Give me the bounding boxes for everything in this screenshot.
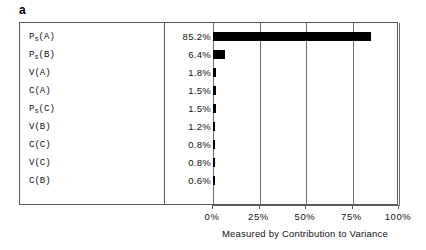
row-value: 0.8% (165, 154, 211, 172)
table-row: C(A)1.5% (20, 82, 164, 100)
row-value: 1.5% (165, 100, 211, 118)
table-rows: Ps(A)85.2%Ps(B)6.4%V(A)1.8%C(A)1.5%Ps(C)… (20, 23, 164, 204)
gridline (306, 23, 307, 206)
gridline (353, 23, 354, 206)
row-label: Ps(C) (29, 100, 55, 118)
row-label: V(C) (29, 154, 51, 172)
x-axis-tick-label: 0% (187, 211, 237, 222)
x-axis-tick (398, 205, 399, 209)
row-value: 85.2% (165, 28, 211, 46)
row-label: C(A) (29, 82, 51, 100)
bar (213, 86, 216, 95)
table-row: Ps(C)1.5% (20, 100, 164, 118)
x-axis-tick (352, 205, 353, 209)
row-label: V(A) (29, 64, 51, 82)
row-value: 0.6% (165, 172, 211, 190)
x-axis-tick (212, 205, 213, 209)
row-label: C(B) (29, 172, 51, 190)
bar (213, 122, 215, 131)
table-row: C(B)0.6% (20, 172, 164, 190)
x-axis-tick-label: 25% (234, 211, 284, 222)
bar (213, 50, 225, 59)
x-axis-tick (259, 205, 260, 209)
x-axis-tick-label: 75% (327, 211, 377, 222)
gridline (260, 23, 261, 206)
bar (213, 104, 216, 113)
table-row: Ps(A)85.2% (20, 28, 164, 46)
bar (213, 158, 215, 167)
table-row: V(A)1.8% (20, 64, 164, 82)
row-label: Ps(A) (29, 28, 55, 46)
row-label: C(C) (29, 136, 51, 154)
row-value: 1.5% (165, 82, 211, 100)
gridline (399, 23, 400, 206)
row-label: V(B) (29, 118, 51, 136)
table-row: Ps(B)6.4% (20, 46, 164, 64)
x-axis-tick-label: 50% (280, 211, 330, 222)
panel-letter: a (19, 3, 26, 17)
table-row: V(C)0.8% (20, 154, 164, 172)
bar (213, 140, 215, 149)
row-value: 0.8% (165, 136, 211, 154)
row-label: Ps(B) (29, 46, 55, 64)
variance-table: Ps(A)85.2%Ps(B)6.4%V(A)1.8%C(A)1.5%Ps(C)… (20, 23, 164, 204)
bar-plot-area (213, 23, 399, 204)
table-divider (164, 23, 165, 204)
row-value: 1.2% (165, 118, 211, 136)
table-row: V(B)1.2% (20, 118, 164, 136)
x-axis-tick (305, 205, 306, 209)
bar (213, 68, 216, 77)
table-row: C(C)0.8% (20, 136, 164, 154)
bar (213, 32, 371, 41)
row-value: 1.8% (165, 64, 211, 82)
row-value: 6.4% (165, 46, 211, 64)
x-axis: 0%25%50%75%100% (212, 205, 398, 206)
x-axis-caption: Measured by Contribution to Variance (212, 228, 398, 239)
bar (213, 176, 215, 185)
figure-frame: Ps(A)85.2%Ps(B)6.4%V(A)1.8%C(A)1.5%Ps(C)… (19, 22, 398, 205)
x-axis-tick-label: 100% (373, 211, 423, 222)
